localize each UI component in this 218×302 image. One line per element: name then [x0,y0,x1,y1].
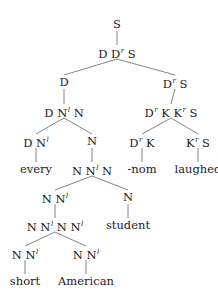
tree-edge [64,59,117,75]
tree-node-n13: laughed [175,163,218,175]
tree-node-n4: D Nl N [44,104,83,119]
tree-edge [92,176,128,190]
tree-edge [142,118,171,134]
tree-node-n1: D Dr S [98,45,136,60]
tree-node-n20: short [10,275,40,287]
tree-edge [171,118,198,134]
tree-edge [171,89,175,104]
tree-node-n10: every [20,163,52,175]
tree-node-n11: N Nl N [72,162,112,177]
tree-node-root: S [113,18,121,30]
tree-node-n3: Dr S [163,75,188,90]
tree-node-n17: student [106,219,150,231]
tree-node-n21: American [58,275,114,287]
tree-node-n5: Dr K Kr S [145,104,198,119]
tree-node-n12: -nom [127,163,156,175]
tree-node-n6: D Nl [23,134,49,149]
tree-node-n2: D [59,76,68,88]
tree-edge [36,118,64,134]
tree-node-n9: Kr S [186,134,210,149]
tree-edge [25,232,55,246]
tree-node-n16: N Nl N Nl [27,218,84,233]
tree-node-n7: N [87,135,97,147]
tree-node-n19: N Nl [73,246,100,261]
tree-edge [55,232,86,246]
tree-edge [117,59,175,75]
tree-node-n14: N Nl [42,190,69,205]
tree-node-n18: N Nl [12,246,39,261]
tree-node-n8: Dr K [129,134,154,149]
tree-node-n15: N [123,191,133,203]
tree-edge [55,176,92,190]
tree-edge [64,118,92,134]
